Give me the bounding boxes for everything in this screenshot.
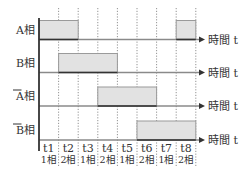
phase-label: B相 [16,57,35,70]
time-axis-label: 時間 t [208,134,238,147]
time-axis-label: 時間 t [208,100,238,113]
arrow-right-icon [199,37,205,43]
arrow-right-icon [199,137,205,143]
pulse-high [137,121,196,140]
phase-timing-diagram: 時間 tA相時間 tB相時間 tA相時間 tB相t11相t22相t31相t42相… [0,0,251,176]
phase-label: A相 [15,90,35,103]
excitation-mode-label: 2相 [60,154,76,165]
pulse-high [39,21,78,40]
excitation-mode-label: 1相 [80,154,96,165]
pulse-high [59,54,118,73]
excitation-mode-label: 1相 [119,154,135,165]
time-axis-label: 時間 t [208,34,238,47]
excitation-mode-label: 1相 [41,154,57,165]
pulse-high [176,21,196,40]
phase-label: A相 [15,24,35,37]
excitation-mode-label: 2相 [178,154,194,165]
pulse-high [98,87,157,106]
phase-row: 時間 tB相 [16,54,239,80]
phase-row: 時間 tA相 [15,21,238,47]
time-axis-label: 時間 t [208,67,238,80]
excitation-mode-label: 2相 [139,154,155,165]
excitation-mode-label: 2相 [100,154,116,165]
arrow-right-icon [199,70,205,76]
excitation-mode-label: 1相 [158,154,174,165]
phase-row: 時間 tA相 [13,87,238,113]
phase-label: B相 [16,124,35,137]
arrow-right-icon [199,103,205,109]
